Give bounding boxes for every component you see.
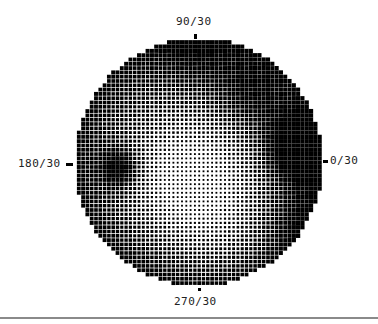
axis-label-top: 90/30 xyxy=(176,16,212,28)
tick-right xyxy=(323,160,328,163)
tick-left xyxy=(66,163,73,166)
axis-label-left: 180/30 xyxy=(18,158,61,170)
tick-top xyxy=(194,34,197,39)
axis-label-bottom: 270/30 xyxy=(174,296,217,308)
halftone-dots xyxy=(77,40,322,285)
tick-bottom xyxy=(198,288,201,291)
axis-label-right: 0/30 xyxy=(330,155,359,167)
bottom-divider-rule xyxy=(0,317,378,319)
